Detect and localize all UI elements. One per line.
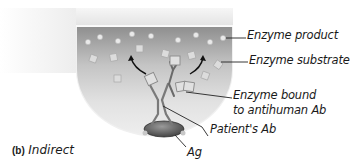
label-enzyme-bound-line1: Enzyme bound — [233, 88, 316, 102]
panel-title: Indirect — [28, 143, 74, 157]
well-rim — [76, 8, 233, 26]
well-illustration — [0, 0, 364, 167]
label-enzyme-product: Enzyme product — [247, 28, 338, 42]
label-enzyme-substrate: Enzyme substrate — [249, 53, 350, 67]
panel-caption: (b) Indirect — [12, 143, 74, 157]
panel-letter: (b) — [12, 145, 25, 156]
label-patients-ab: Patient's Ab — [210, 122, 276, 136]
plate-surface — [0, 8, 76, 73]
antigen — [144, 121, 184, 137]
label-ag: Ag — [187, 145, 202, 159]
label-enzyme-bound-line2: to antihuman Ab — [233, 103, 326, 117]
indirect-elisa-diagram: Enzyme product Enzyme substrate Enzyme b… — [0, 0, 364, 167]
